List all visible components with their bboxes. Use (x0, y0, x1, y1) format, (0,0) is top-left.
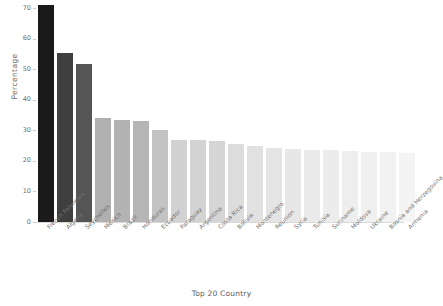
y-tick-label: 60 (9, 35, 31, 42)
bar[interactable] (57, 53, 73, 222)
y-tick-label: 40 (9, 96, 31, 103)
bar[interactable] (114, 120, 130, 222)
y-tick-mark (33, 222, 36, 223)
y-tick-label: 30 (9, 127, 31, 134)
bar[interactable] (38, 5, 54, 222)
bar-chart: Percentage 010203040506070 French Polyne… (0, 0, 443, 306)
y-tick-label: 50 (9, 66, 31, 73)
y-tick-label: 70 (9, 5, 31, 12)
bar[interactable] (133, 121, 149, 222)
y-tick-label: 20 (9, 157, 31, 164)
y-tick-label: 10 (9, 188, 31, 195)
bar[interactable] (304, 150, 320, 222)
plot-area (36, 8, 416, 222)
y-tick-label: 0 (9, 219, 31, 226)
x-axis-title: Top 20 Country (0, 289, 443, 298)
